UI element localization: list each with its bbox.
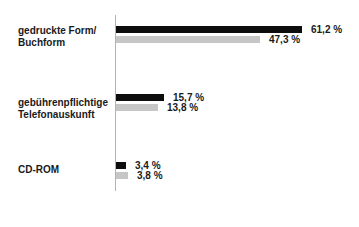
value-label: 13,8 % <box>167 104 198 111</box>
bar-secondary <box>116 36 260 43</box>
value-label: 15,7 % <box>173 94 204 101</box>
bar-secondary <box>116 104 158 111</box>
bar-row: 3,4 % <box>116 162 161 169</box>
bar-row: 3,8 % <box>116 172 163 179</box>
value-label: 3,8 % <box>137 172 163 179</box>
category-label-cd-rom: CD-ROM <box>18 164 114 176</box>
bar-chart: gedruckte Form/ Buchform 61,2 % 47,3 % g… <box>0 0 359 227</box>
category-label-line: gebührenpflichtige <box>18 97 114 109</box>
category-label-line: Buchform <box>18 37 114 49</box>
bar-secondary <box>116 172 128 179</box>
value-label: 3,4 % <box>135 162 161 169</box>
bar-primary <box>116 94 164 101</box>
value-label: 61,2 % <box>311 26 342 33</box>
category-label-telefonauskunft: gebührenpflichtige Telefonauskunft <box>18 97 114 121</box>
bar-row: 47,3 % <box>116 36 300 43</box>
bar-primary <box>116 26 302 33</box>
category-label-gedruckte-form: gedruckte Form/ Buchform <box>18 25 114 49</box>
category-label-line: gedruckte Form/ <box>18 25 114 37</box>
bar-row: 13,8 % <box>116 104 198 111</box>
value-label: 47,3 % <box>269 36 300 43</box>
bar-row: 61,2 % <box>116 26 342 33</box>
category-label-line: CD-ROM <box>18 164 114 176</box>
bar-primary <box>116 162 126 169</box>
bar-row: 15,7 % <box>116 94 204 101</box>
category-label-line: Telefonauskunft <box>18 109 114 121</box>
